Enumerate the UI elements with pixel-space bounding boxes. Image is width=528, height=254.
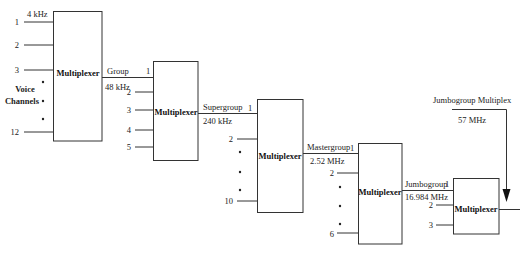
mux3-port-label: 10 bbox=[225, 196, 234, 206]
ellipsis-dot bbox=[239, 151, 241, 153]
mux2-port-label: 4 bbox=[127, 125, 132, 135]
mux1-port-label: 1 bbox=[15, 17, 19, 27]
mux1-port-label: 2 bbox=[15, 40, 19, 50]
mux5-port-label: 1 bbox=[445, 179, 449, 189]
multiplexer-5-label: Multiplexer bbox=[455, 204, 498, 214]
mux3-port-label: 1 bbox=[248, 103, 252, 113]
ellipsis-dot bbox=[42, 81, 44, 83]
multiplexer-3-label: Multiplexer bbox=[259, 151, 302, 161]
mux1-port-label: 12 bbox=[11, 127, 20, 137]
mux2-port-label: 5 bbox=[127, 142, 131, 152]
mux4-port-label: 1 bbox=[350, 143, 354, 153]
mastergroup-link-label: Mastergroup bbox=[307, 142, 350, 152]
mux5-port-label: 3 bbox=[429, 220, 433, 230]
mux5-port-label: 2 bbox=[429, 200, 433, 210]
mux2-port-label: 3 bbox=[127, 105, 131, 115]
jumbogroup-multiplex-frequency: 57 MHz bbox=[458, 115, 486, 125]
mux4-port-label: 6 bbox=[330, 229, 334, 239]
supergroup-link-label: Supergroup bbox=[203, 102, 243, 112]
ellipsis-dot bbox=[42, 100, 44, 102]
input-frequency-label: 4 kHz bbox=[27, 9, 48, 19]
jumbogroup-multiplex-label: Jumbogroup Multiplex bbox=[433, 95, 512, 105]
group-link-label: Group bbox=[107, 66, 129, 76]
jumbogroup-link-label: Jumbogroup bbox=[405, 179, 448, 189]
mux3-port-label: 2 bbox=[229, 134, 233, 144]
mastergroup-frequency-label: 2.52 MHz bbox=[310, 156, 345, 166]
channels-label: Channels bbox=[5, 96, 40, 106]
supergroup-frequency-label: 240 kHz bbox=[203, 116, 232, 126]
mux2-port-label: 1 bbox=[146, 66, 150, 76]
ellipsis-dot bbox=[42, 118, 44, 120]
multiplexer-1-label: Multiplexer bbox=[57, 68, 100, 78]
mux1-port-label: 3 bbox=[15, 65, 19, 75]
multiplexer-4-label: Multiplexer bbox=[359, 187, 402, 197]
ellipsis-dot bbox=[339, 186, 341, 188]
arrowhead-icon bbox=[503, 189, 511, 202]
ellipsis-dot bbox=[239, 171, 241, 173]
mux2-port-label: 2 bbox=[127, 87, 131, 97]
ellipsis-dot bbox=[339, 205, 341, 207]
multiplexer-2-label: Multiplexer bbox=[155, 107, 198, 117]
fdm-hierarchy-diagram: 4 kHz Voice Channels 1 2 3 12 Multiplexe… bbox=[0, 0, 528, 254]
ellipsis-dot bbox=[239, 189, 241, 191]
jumbogroup-frequency-label: 16.984 MHz bbox=[405, 192, 448, 202]
voice-label: Voice bbox=[15, 84, 35, 94]
mux4-port-label: 2 bbox=[330, 168, 334, 178]
ellipsis-dot bbox=[339, 223, 341, 225]
